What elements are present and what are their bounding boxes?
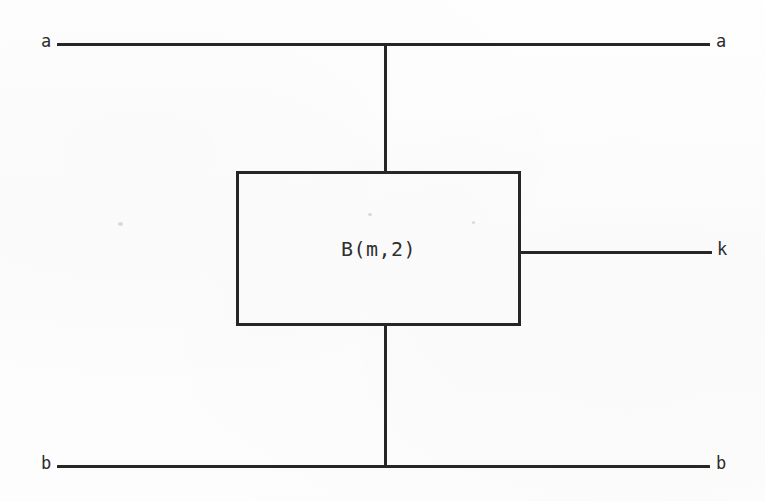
output-k-wire [519, 251, 712, 254]
block-box: B(m,2) [236, 171, 521, 326]
terminal-label-a-right: a [716, 33, 726, 50]
block-label: B(m,2) [239, 174, 518, 323]
diagram-canvas: B(m,2) a a b b k [0, 0, 765, 501]
terminal-label-b-left: b [41, 455, 51, 472]
terminal-label-a-left: a [41, 33, 51, 50]
terminal-label-k-right: k [717, 241, 727, 258]
upper-vertical-wire [384, 44, 387, 173]
terminal-label-b-right: b [716, 455, 726, 472]
scan-speck [118, 222, 123, 226]
lower-vertical-wire [384, 324, 387, 467]
